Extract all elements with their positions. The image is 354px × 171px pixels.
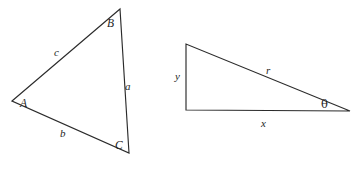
- vertex-label-c: C: [115, 139, 123, 151]
- angle-label-theta: θ: [321, 97, 328, 111]
- figure-container: A B C a b c y r x θ: [0, 0, 354, 171]
- side-label-b: b: [60, 127, 66, 139]
- oblique-triangle-group: A B C a b c: [12, 9, 131, 153]
- side-label-x: x: [260, 117, 266, 129]
- side-label-c: c: [54, 46, 59, 58]
- side-label-a: a: [125, 80, 131, 92]
- vertex-label-a: A: [19, 97, 28, 109]
- side-label-y: y: [174, 70, 180, 82]
- right-triangle-group: y r x θ: [174, 44, 350, 129]
- side-label-r: r: [266, 64, 271, 76]
- triangles-figure: A B C a b c y r x θ: [0, 0, 354, 171]
- vertex-label-b: B: [107, 17, 114, 29]
- triangle-abc-outline: [12, 9, 129, 153]
